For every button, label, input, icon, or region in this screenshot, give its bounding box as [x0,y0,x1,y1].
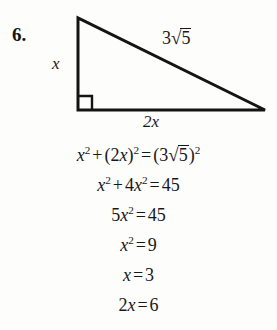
operator: = [139,145,153,165]
exponent: 2 [128,234,134,246]
exponent: 2 [128,204,134,216]
variable: x [120,205,128,225]
operator: + [90,145,104,165]
number: 45 [148,205,166,225]
operator: = [134,205,148,225]
number: 4 [125,175,134,195]
right-angle-marker [78,96,92,110]
square-root-icon: √5 [171,28,191,49]
hypotenuse-coefficient: 3 [162,28,171,48]
hypotenuse-label: 3√5 [162,28,191,49]
operator: + [111,175,125,195]
equation-line-6: 2x=6 [0,290,277,320]
number: 9 [148,235,157,255]
variable: x [123,265,131,285]
equation-line-5: x=3 [0,260,277,290]
worksheet-page: 6. x 2x 3√5 x2+(2x)2=(3√5)2x2+4x2=455x2=… [0,0,277,330]
vertical-leg-label: x [52,54,60,74]
square-root-icon: √5 [168,140,188,170]
variable: x [120,145,128,165]
radical-sign: √ [171,29,181,48]
operator: = [134,235,148,255]
number: 5 [111,205,120,225]
number: 6 [150,295,159,315]
variable: x [134,175,142,195]
exponent: 2 [142,174,148,186]
number: 45 [162,175,180,195]
equation-line-2: x2+4x2=45 [0,170,277,200]
variable: x [120,235,128,255]
horizontal-leg-label: 2x [143,112,159,132]
triangle-figure: x 2x 3√5 [0,0,277,140]
number: 3 [145,265,154,285]
operator: = [131,265,145,285]
operator: = [148,175,162,195]
exponent: 2 [195,144,201,156]
equation-line-1: x2+(2x)2=(3√5)2 [0,140,277,170]
exponent: 2 [105,174,111,186]
number: (2 [105,145,120,165]
radical-sign: √ [168,146,178,165]
triangle-drawing [0,0,277,140]
equation-line-3: 5x2=45 [0,200,277,230]
operator: = [135,295,149,315]
number: (3 [153,145,168,165]
variable: x [77,145,85,165]
hypotenuse-radicand: 5 [180,28,191,48]
solution-steps: x2+(2x)2=(3√5)2x2+4x2=455x2=45x2=9x=32x=… [0,140,277,320]
radicand: 5 [178,145,189,165]
equation-line-4: x2=9 [0,230,277,260]
